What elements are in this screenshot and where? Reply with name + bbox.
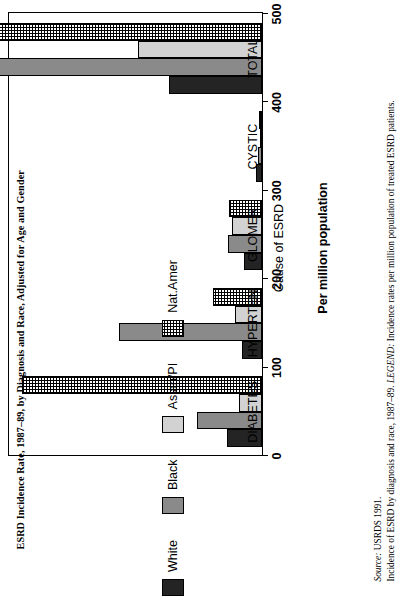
legend-item-natamer: Nat.Amer <box>162 260 184 337</box>
legend-label: Nat.Amer <box>166 260 180 313</box>
value-axis-tick <box>262 455 268 456</box>
legend-swatch <box>162 497 184 514</box>
legend-item-white: White <box>162 540 184 596</box>
legend-label: White <box>166 540 180 572</box>
caption-legend-label: LEGEND: <box>386 344 396 384</box>
value-axis-tick <box>262 13 268 14</box>
value-axis-title: Per million population <box>316 0 330 496</box>
category-label-cystic: CYSTIC <box>246 124 260 170</box>
category-label-glomer: GLOMER <box>246 208 260 262</box>
bar-white-total <box>169 76 262 94</box>
bar-natamer-diabetes <box>22 376 262 394</box>
caption-body-pre: Incidence of ESRD by diagnosis and race,… <box>386 383 396 581</box>
category-label-total: TOTAL <box>246 39 260 78</box>
value-axis-tick <box>262 367 268 368</box>
chart-legend: WhiteBlackAsian/PINat.Amer <box>153 180 193 600</box>
legend-label: Asian/PI <box>166 363 180 410</box>
legend-label: Black <box>166 459 180 490</box>
category-label-diabetes: DIABETES <box>246 381 260 443</box>
caption-body-post: Incidence rates per million population o… <box>386 100 396 343</box>
caption-source: Source: USRDS 1991. <box>373 26 383 582</box>
bar-black-total <box>0 58 262 76</box>
bar-asianpi-cystic <box>260 129 262 147</box>
value-axis-tick <box>262 190 268 191</box>
legend-swatch <box>162 320 184 337</box>
legend-swatch <box>162 579 184 596</box>
figure-caption: Source: USRDS 1991. Incidence of ESRD by… <box>373 26 396 582</box>
category-label-hyperten: HYPERTEN <box>246 289 260 357</box>
value-axis-tick <box>262 101 268 102</box>
legend-item-black: Black <box>162 459 184 514</box>
legend-swatch <box>162 416 184 433</box>
value-axis-tick <box>262 278 268 279</box>
bar-asianpi-total <box>138 41 262 59</box>
value-axis-baseline <box>262 14 263 456</box>
caption-body: Incidence of ESRD by diagnosis and race,… <box>386 26 396 582</box>
caption-source-text: USRDS 1991. <box>373 497 383 553</box>
caption-source-label: Source: <box>373 553 383 582</box>
category-axis-title: Cause of ESRD <box>272 0 286 496</box>
bar-natamer-total <box>0 23 262 41</box>
legend-item-asianpi: Asian/PI <box>162 363 184 434</box>
